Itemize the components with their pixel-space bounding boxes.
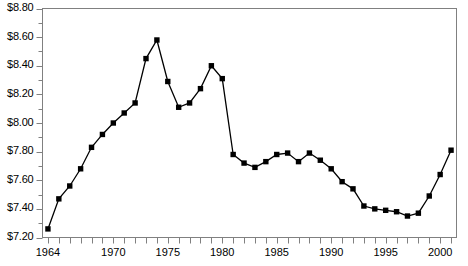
x-axis-tick-label: 2000 [415, 246, 465, 258]
data-point-marker [427, 193, 432, 198]
data-point-marker [56, 196, 61, 201]
chart-plot-area [0, 0, 468, 266]
data-point-marker [230, 152, 235, 157]
y-axis-tick-label: $8.80 [7, 1, 34, 13]
x-axis-tick-label: 1985 [252, 246, 302, 258]
data-point-marker [383, 208, 388, 213]
x-axis-ticks [49, 238, 452, 244]
data-point-marker [154, 37, 159, 42]
data-point-marker [296, 159, 301, 164]
data-point-marker [111, 120, 116, 125]
data-point-marker [176, 105, 181, 110]
x-axis-tick-label: 1975 [143, 246, 193, 258]
data-point-marker [405, 213, 410, 218]
data-point-marker [165, 79, 170, 84]
y-axis-tick-label: $8.40 [7, 58, 34, 70]
data-point-marker [220, 76, 225, 81]
data-point-marker [45, 226, 50, 231]
data-point-marker [394, 209, 399, 214]
data-point-marker [241, 160, 246, 165]
y-axis-tick-label: $7.60 [7, 173, 34, 185]
data-point-marker [285, 150, 290, 155]
y-axis-ticks [37, 10, 43, 239]
data-point-marker [372, 206, 377, 211]
y-axis-tick-label: $7.20 [7, 230, 34, 242]
y-axis-tick-label: $8.20 [7, 87, 34, 99]
data-point-marker [187, 100, 192, 105]
data-point-marker [143, 56, 148, 61]
x-axis-tick-label: 1970 [88, 246, 138, 258]
y-axis-tick-label: $7.80 [7, 144, 34, 156]
data-point-marker [416, 210, 421, 215]
data-point-marker [437, 172, 442, 177]
data-point-marker [132, 100, 137, 105]
data-point-marker [89, 145, 94, 150]
data-point-marker [274, 152, 279, 157]
line-chart: $8.80$8.60$8.40$8.20$8.00$7.80$7.60$7.40… [0, 0, 468, 266]
x-axis-tick-label: 1964 [23, 246, 73, 258]
data-markers [45, 37, 454, 231]
data-point-marker [448, 147, 453, 152]
y-axis-tick-label: $8.60 [7, 30, 34, 42]
data-point-marker [122, 110, 127, 115]
x-axis-tick-label: 1990 [306, 246, 356, 258]
plot-frame [43, 9, 457, 238]
data-point-marker [263, 159, 268, 164]
data-point-marker [67, 183, 72, 188]
data-point-marker [100, 132, 105, 137]
data-point-marker [318, 158, 323, 163]
x-axis-tick-label: 1980 [197, 246, 247, 258]
data-point-marker [350, 186, 355, 191]
data-point-marker [361, 203, 366, 208]
data-point-marker [252, 165, 257, 170]
y-axis-tick-label: $8.00 [7, 116, 34, 128]
data-point-marker [209, 63, 214, 68]
data-point-marker [307, 150, 312, 155]
data-point-marker [78, 166, 83, 171]
data-point-marker [198, 86, 203, 91]
y-axis-tick-label: $7.40 [7, 201, 34, 213]
x-axis-tick-label: 1995 [361, 246, 411, 258]
data-line [48, 40, 451, 229]
data-point-marker [329, 166, 334, 171]
data-point-marker [339, 179, 344, 184]
